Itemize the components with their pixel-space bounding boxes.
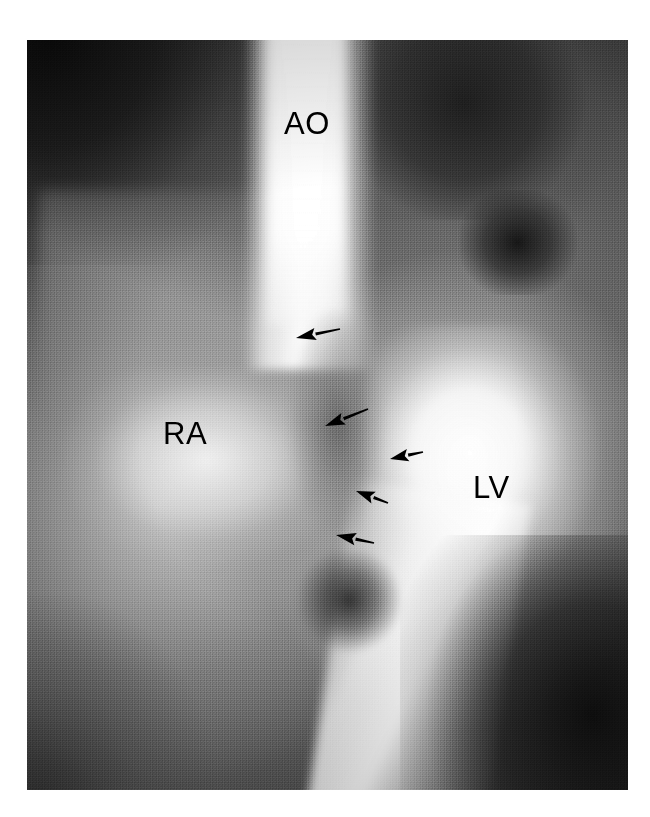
annotation-arrow <box>390 449 423 461</box>
arrow-annotation-overlay <box>0 0 650 817</box>
arrow-shaft <box>355 538 374 544</box>
arrow-shaft <box>343 408 368 420</box>
arrow-shaft <box>408 451 423 457</box>
annotation-arrow <box>296 328 340 340</box>
arrow-head <box>325 413 346 426</box>
arrow-head <box>390 449 409 461</box>
arrow-shaft <box>315 328 340 335</box>
arrow-head <box>336 533 357 545</box>
arrow-head <box>296 328 317 340</box>
annotation-arrow <box>336 533 374 545</box>
annotation-arrow <box>325 408 368 426</box>
arrow-head <box>356 491 376 503</box>
arrow-shaft <box>373 496 388 504</box>
annotation-arrow <box>356 491 388 504</box>
figure-root: AO RA LV <box>0 0 650 817</box>
